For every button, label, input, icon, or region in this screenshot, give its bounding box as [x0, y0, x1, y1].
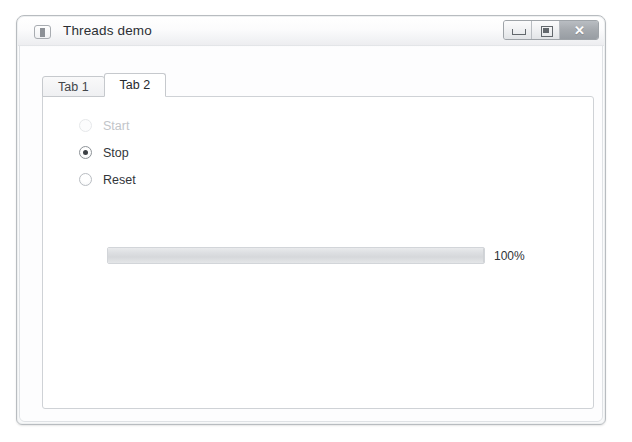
- maximize-icon[interactable]: [532, 21, 560, 39]
- tab-control: Tab 1 Tab 2 Start Stop: [42, 74, 594, 409]
- window-controls: ✕: [503, 20, 599, 40]
- progress-bar-fill: [108, 248, 484, 263]
- progress-percent-label: 100%: [494, 249, 525, 263]
- thread-control-radio-group: Start Stop Reset: [79, 115, 136, 196]
- tab-panel-tab-2: Start Stop Reset 10: [42, 96, 594, 409]
- app-window-icon: [34, 25, 51, 39]
- radio-circle-icon: [79, 119, 92, 132]
- radio-label-stop: Stop: [103, 146, 129, 160]
- tab-tab-1[interactable]: Tab 1: [42, 76, 105, 97]
- tab-label: Tab 1: [58, 80, 89, 94]
- title-bar[interactable]: Threads demo ✕: [18, 17, 604, 46]
- radio-option-start[interactable]: Start: [79, 115, 136, 136]
- tab-label: Tab 2: [120, 78, 151, 92]
- client-area: Tab 1 Tab 2 Start Stop: [20, 47, 602, 421]
- close-icon: ✕: [560, 21, 598, 39]
- radio-label-reset: Reset: [103, 173, 136, 187]
- tab-tab-2[interactable]: Tab 2: [104, 73, 167, 97]
- radio-circle-icon: [79, 173, 92, 186]
- radio-circle-selected-icon: [79, 146, 92, 159]
- radio-option-stop[interactable]: Stop: [79, 142, 136, 163]
- minimize-icon[interactable]: [504, 21, 532, 39]
- progress-bar: [107, 247, 485, 264]
- progress-row: 100%: [107, 247, 525, 264]
- close-button[interactable]: ✕: [560, 21, 598, 39]
- application-window: Threads demo ✕ Tab 1 Tab 2: [16, 15, 606, 425]
- radio-label-start: Start: [103, 119, 129, 133]
- window-title: Threads demo: [63, 23, 152, 38]
- radio-option-reset[interactable]: Reset: [79, 169, 136, 190]
- tab-strip: Tab 1 Tab 2: [42, 74, 166, 97]
